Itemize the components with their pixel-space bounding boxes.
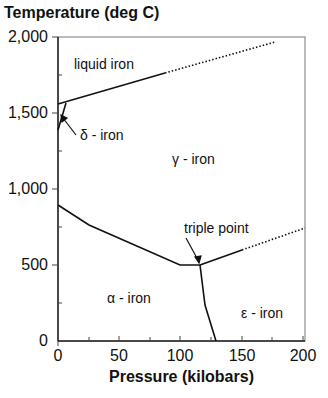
plot-frame — [58, 37, 305, 341]
delta-arrow-head — [61, 115, 67, 122]
label-liquid-iron: liquid iron — [74, 56, 134, 72]
label-gamma-iron: γ - iron — [172, 151, 215, 167]
delta-arrow-line — [63, 118, 76, 135]
label-epsilon-iron: ε - iron — [241, 305, 283, 321]
gamma-epsilon-dotted — [242, 228, 305, 250]
phase-boundaries — [58, 42, 305, 341]
alpha-epsilon-boundary — [200, 265, 216, 341]
triple-point-arrow-head — [195, 256, 201, 263]
liquid-boundary-dotted — [165, 42, 275, 73]
alpha-gamma-boundary — [58, 205, 200, 265]
gamma-epsilon-boundary — [200, 250, 242, 265]
label-triple-point: triple point — [184, 220, 249, 236]
label-alpha-iron: α - iron — [107, 290, 151, 306]
y-axis-ticks — [52, 37, 62, 303]
liquid-boundary-line — [58, 73, 165, 104]
label-delta-iron: δ - iron — [80, 127, 124, 143]
phase-diagram-plot — [0, 0, 328, 398]
